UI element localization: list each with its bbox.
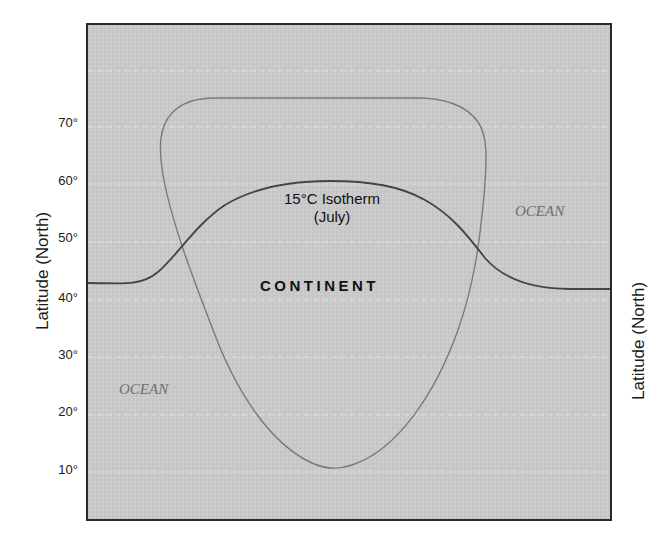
isotherm-label-line1: 15°C Isotherm bbox=[262, 190, 402, 208]
y-tick-20: 20° bbox=[38, 404, 78, 419]
continent-label: CONTINENT bbox=[260, 277, 379, 294]
isotherm-label: 15°C Isotherm (July) bbox=[262, 190, 402, 226]
y-tick-30: 30° bbox=[38, 347, 78, 362]
y-axis-title: Latitude (North) bbox=[33, 211, 53, 331]
ocean-label-right: OCEAN bbox=[515, 203, 564, 220]
ocean-label-left: OCEAN bbox=[119, 381, 168, 398]
y-tick-10: 10° bbox=[38, 462, 78, 477]
y-tick-60: 60° bbox=[38, 173, 78, 188]
isotherm-label-line2: (July) bbox=[262, 208, 402, 226]
cropped-edge-text: Latitude (North) bbox=[629, 282, 649, 400]
y-tick-70: 70° bbox=[38, 115, 78, 130]
